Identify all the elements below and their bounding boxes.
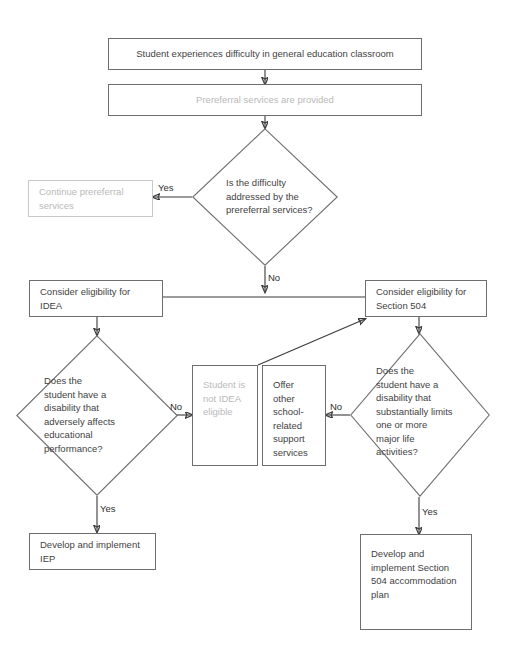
node-section504-decision[interactable]: Does the student have a disability that … [350,333,490,497]
node-develop-504-plan-label: Develop and implement Section 504 accomm… [371,547,461,601]
flowchart-canvas: Student experiences difficulty in genera… [0,0,515,653]
edge-label-504-no: No [330,401,342,412]
node-start[interactable]: Student experiences difficulty in genera… [108,38,422,70]
edge-label-idea-no: No [170,401,182,412]
edge-label-difficulty-yes: Yes [158,182,174,193]
edge-label-504-yes: Yes [422,506,438,517]
node-consider-504-label: Consider eligibility for Section 504 [376,285,476,312]
node-not-idea-eligible[interactable]: Student is not IDEA eligible [192,365,258,466]
node-section504-decision-label: Does the student have a disability that … [376,364,480,459]
node-continue-prereferral-label: Continue prereferral services [39,185,142,212]
edge-label-idea-yes: Yes [100,503,116,514]
node-consider-idea-label: Consider eligibility for IDEA [40,285,152,312]
node-not-idea-eligible-label: Student is not IDEA eligible [203,378,247,419]
node-difficulty-decision-label: Is the difficulty addressed by the prere… [226,176,342,217]
node-idea-decision-label: Does the student have a disability that … [44,374,148,455]
edge-offer-support-to-consider-504 [258,319,365,365]
node-offer-other-support[interactable]: Offer other school-related support servi… [262,365,326,466]
node-consider-idea[interactable]: Consider eligibility for IDEA [29,280,163,317]
node-start-label: Student experiences difficulty in genera… [136,47,394,61]
node-develop-504-plan[interactable]: Develop and implement Section 504 accomm… [360,534,472,630]
node-develop-iep-label: Develop and implement IEP [40,538,145,565]
node-difficulty-decision[interactable]: Is the difficulty addressed by the prere… [192,128,338,266]
node-prereferral[interactable]: Prereferral services are provided [108,84,422,116]
edge-label-difficulty-no: No [268,272,280,283]
node-continue-prereferral[interactable]: Continue prereferral services [28,180,153,217]
node-consider-504[interactable]: Consider eligibility for Section 504 [365,280,487,317]
node-prereferral-label: Prereferral services are provided [196,93,334,107]
node-offer-other-support-label: Offer other school-related support servi… [273,378,315,459]
node-develop-iep[interactable]: Develop and implement IEP [29,533,156,570]
node-idea-decision[interactable]: Does the student have a disability that … [16,335,178,496]
